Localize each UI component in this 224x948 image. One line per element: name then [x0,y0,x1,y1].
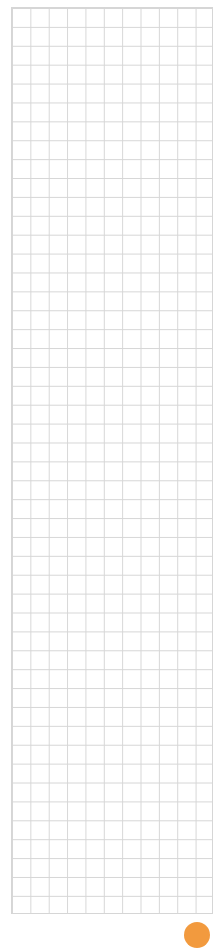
grid-canvas[interactable] [11,7,213,914]
floating-action-button[interactable] [184,922,210,948]
